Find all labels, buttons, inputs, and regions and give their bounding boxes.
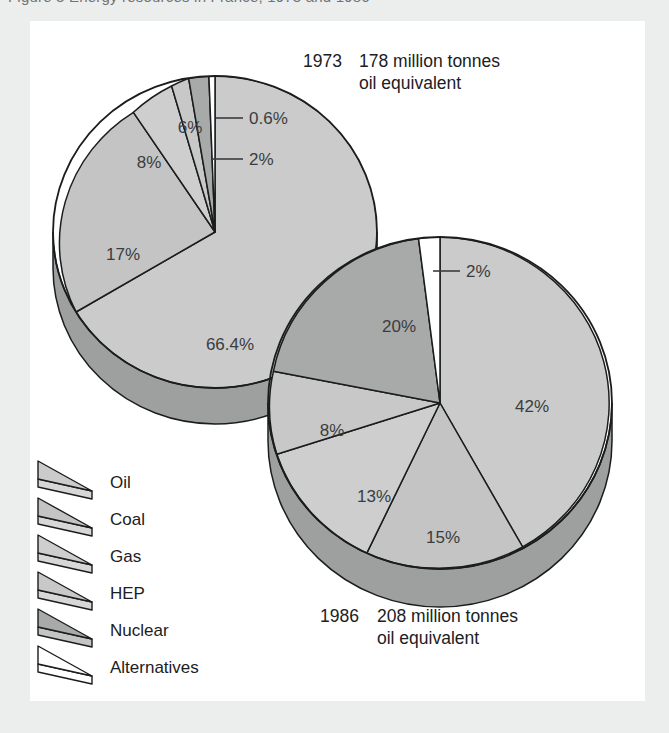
pie-1986-slices: [269, 237, 609, 568]
pie-1986-year: 1986: [320, 606, 359, 626]
pie-1986-amount-line2: oil equivalent: [377, 628, 479, 648]
legend-label-nuclear: Nuclear: [110, 621, 169, 640]
pie-1973-label-coal: 17%: [106, 245, 140, 264]
legend-label-coal: Coal: [110, 510, 145, 529]
pie-1986-label-nuclear: 20%: [382, 317, 416, 336]
legend-label-hep: HEP: [110, 584, 145, 603]
pie-1973-amount-line1: 178 million tonnes: [359, 51, 500, 71]
pie-1986-label-alternatives: 2%: [466, 262, 491, 281]
pie-1973-label-nuclear: 2%: [249, 150, 274, 169]
pie-chart-1986: 42% 15% 13% 8% 20% 2% 1986 208 million t…: [268, 237, 612, 648]
legend-item-hep[interactable]: HEP: [38, 572, 145, 610]
legend-label-oil: Oil: [110, 473, 131, 492]
legend-item-nuclear[interactable]: Nuclear: [38, 609, 169, 647]
legend: Oil Coal Gas HEP: [38, 461, 199, 684]
energy-pie-charts: 66.4% 17% 8% 6% 2% 0.6% 1973 178 million…: [30, 21, 645, 701]
figure-caption-strip: Figure 3 Energy resources in France, 197…: [0, 0, 669, 9]
figure-plate: 66.4% 17% 8% 6% 2% 0.6% 1973 178 million…: [30, 21, 645, 701]
pie-1973-amount-line2: oil equivalent: [359, 73, 461, 93]
pie-1973-label-alternatives: 0.6%: [249, 109, 288, 128]
figure-caption: Figure 3 Energy resources in France, 197…: [8, 0, 370, 5]
pie-1973-label-oil: 66.4%: [206, 335, 254, 354]
legend-label-gas: Gas: [110, 547, 141, 566]
legend-label-alternatives: Alternatives: [110, 658, 199, 677]
page-background: Figure 3 Energy resources in France, 197…: [0, 0, 669, 733]
legend-item-coal[interactable]: Coal: [38, 498, 145, 536]
pie-1973-label-hep: 6%: [178, 118, 203, 137]
pie-1973-label-gas: 8%: [137, 153, 162, 172]
pie-1986-label-hep: 8%: [320, 421, 345, 440]
legend-item-gas[interactable]: Gas: [38, 535, 141, 573]
pie-1986-amount-line1: 208 million tonnes: [377, 606, 518, 626]
legend-item-alternatives[interactable]: Alternatives: [38, 646, 199, 684]
pie-1973-year: 1973: [303, 51, 342, 71]
pie-1986-label-oil: 42%: [515, 397, 549, 416]
legend-item-oil[interactable]: Oil: [38, 461, 131, 499]
pie-1986-label-gas: 13%: [357, 487, 391, 506]
pie-1986-label-coal: 15%: [426, 528, 460, 547]
